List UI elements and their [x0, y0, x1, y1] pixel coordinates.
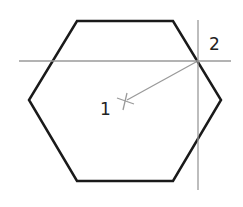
hexagon-diagram: [0, 0, 243, 207]
center-cross-icon: [117, 93, 134, 110]
radius-line: [127, 62, 196, 100]
vertex-label: 2: [209, 36, 220, 53]
center-label: 1: [100, 101, 111, 118]
